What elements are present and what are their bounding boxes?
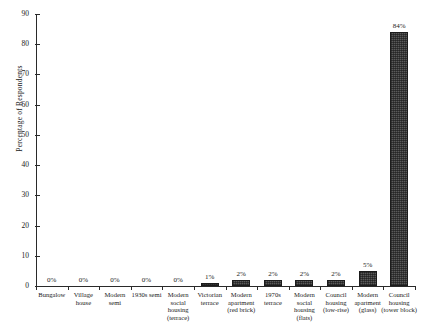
category-label-line: housing xyxy=(380,299,418,307)
x-tick-mark xyxy=(352,286,353,290)
bar-value-label: 2% xyxy=(227,271,255,278)
y-tick-label: 20 xyxy=(22,222,30,230)
bar-value-label: 2% xyxy=(259,271,287,278)
bar-value-label: 2% xyxy=(322,271,350,278)
bar-value-label: 0% xyxy=(101,277,129,284)
category-label-line: (flats) xyxy=(286,314,324,322)
bar-value-label: 0% xyxy=(38,277,66,284)
x-tick-mark xyxy=(226,286,227,290)
y-tick-label: 30 xyxy=(22,192,30,200)
x-tick-mark xyxy=(99,286,100,290)
x-tick-mark xyxy=(415,286,416,290)
y-tick-label: 40 xyxy=(22,161,30,169)
bar xyxy=(264,280,282,286)
category-label-line: Council xyxy=(380,291,418,299)
y-axis-line xyxy=(36,14,37,286)
category-label-line: (tower block) xyxy=(380,306,418,314)
bar-value-label: 0% xyxy=(69,277,97,284)
bar-chart: Percentage of Respondents 01020304050607… xyxy=(0,0,421,332)
category-label: Councilhousing(tower block) xyxy=(380,291,418,314)
bar xyxy=(327,280,345,286)
y-tick-mark xyxy=(35,74,40,75)
bar xyxy=(232,280,250,286)
y-tick-mark xyxy=(35,165,40,166)
y-tick-mark xyxy=(35,14,40,15)
y-tick-label: 0 xyxy=(25,282,29,290)
bar-value-label: 1% xyxy=(196,274,224,281)
bar-value-label: 0% xyxy=(164,277,192,284)
y-tick-label: 90 xyxy=(22,10,30,18)
bar-value-label: 5% xyxy=(354,262,382,269)
x-tick-mark xyxy=(68,286,69,290)
y-tick-label: 80 xyxy=(22,40,30,48)
y-tick-label: 70 xyxy=(22,71,30,79)
bar xyxy=(295,280,313,286)
x-tick-mark xyxy=(320,286,321,290)
x-tick-mark xyxy=(36,286,37,290)
y-tick-mark xyxy=(35,195,40,196)
category-label-line: (red brick) xyxy=(223,306,261,314)
category-label-line: (terrace) xyxy=(159,314,197,322)
x-tick-mark xyxy=(194,286,195,290)
y-tick-mark xyxy=(35,44,40,45)
y-tick-mark xyxy=(35,256,40,257)
plot-area: 0102030405060708090 0%0%0%0%0%1%2%2%2%2%… xyxy=(36,14,415,286)
y-tick-mark xyxy=(35,226,40,227)
bar xyxy=(390,32,408,286)
y-tick-label: 60 xyxy=(22,101,30,109)
bar xyxy=(359,271,377,286)
y-tick-label: 50 xyxy=(22,131,30,139)
x-tick-mark xyxy=(162,286,163,290)
x-tick-mark xyxy=(257,286,258,290)
bar-value-label: 0% xyxy=(133,277,161,284)
y-tick-mark xyxy=(35,105,40,106)
bar xyxy=(201,283,219,286)
y-tick-label: 10 xyxy=(22,252,30,260)
bar-value-label: 84% xyxy=(385,23,413,30)
category-label-line: semi xyxy=(96,299,134,307)
x-tick-mark xyxy=(131,286,132,290)
bar-value-label: 2% xyxy=(290,271,318,278)
y-tick-mark xyxy=(35,135,40,136)
x-tick-mark xyxy=(289,286,290,290)
x-tick-mark xyxy=(383,286,384,290)
